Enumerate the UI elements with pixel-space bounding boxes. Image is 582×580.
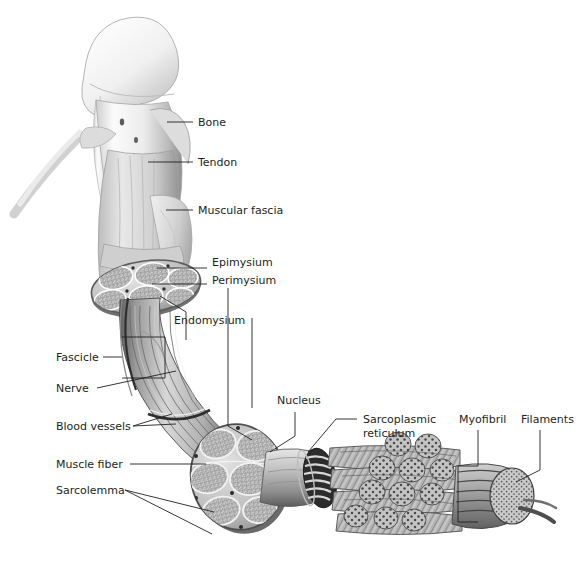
label-fascicle-text: Fascicle	[56, 351, 99, 364]
label-tendon: Tendon	[197, 156, 237, 169]
label-sarcolemma-text: Sarcolemma	[56, 484, 125, 497]
label-endomysium-text: Endomysium	[174, 314, 245, 327]
anatomy-illustration: Bone Tendon Muscular fascia Epimysium Pe…	[0, 0, 582, 580]
label-endomysium: Endomysium	[174, 314, 245, 327]
label-sarcoplasmic-reticulum-line1: Sarcoplasmic	[363, 413, 436, 426]
label-myofibril: Myofibril	[459, 413, 506, 426]
label-nerve: Nerve	[56, 382, 89, 395]
label-sarcoplasmic-reticulum-line2: reticulum	[363, 427, 415, 440]
label-muscular-fascia-text: Muscular fascia	[198, 204, 283, 217]
muscle-anatomy-figure: Bone Tendon Muscular fascia Epimysium Pe…	[0, 0, 582, 580]
label-sarcolemma: Sarcolemma	[56, 484, 125, 497]
label-bone: Bone	[198, 116, 226, 129]
label-myofibril-text: Myofibril	[459, 413, 506, 426]
label-tendon-text: Tendon	[197, 156, 237, 169]
label-filaments-text: Filaments	[521, 413, 574, 426]
label-epimysium: Epimysium	[212, 256, 273, 269]
label-muscle-fiber: Muscle fiber	[56, 458, 123, 471]
label-perimysium-text: Perimysium	[212, 274, 276, 287]
label-bone-text: Bone	[198, 116, 226, 129]
label-nucleus: Nucleus	[277, 394, 321, 407]
label-filaments: Filaments	[521, 413, 574, 426]
label-blood-vessels: Blood vessels	[56, 420, 131, 433]
label-blood-vessels-text: Blood vessels	[56, 420, 131, 433]
label-fascicle: Fascicle	[56, 351, 99, 364]
label-muscular-fascia: Muscular fascia	[198, 204, 283, 217]
label-perimysium: Perimysium	[212, 274, 276, 287]
label-nucleus-text: Nucleus	[277, 394, 321, 407]
label-muscle-fiber-text: Muscle fiber	[56, 458, 123, 471]
label-nerve-text: Nerve	[56, 382, 89, 395]
label-epimysium-text: Epimysium	[212, 256, 273, 269]
